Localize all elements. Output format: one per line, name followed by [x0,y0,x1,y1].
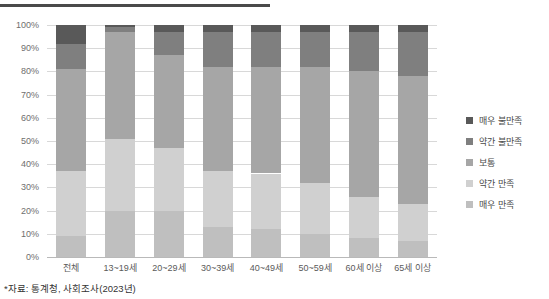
bar-segment [56,44,86,70]
bar-segment [300,25,330,32]
source-footnote: *자료: 통계청, 사회조사(2023년) [4,281,136,295]
bar-segment [56,236,86,257]
stacked-bar [154,25,184,257]
chart-legend: 매우 불만족약간 불만족보통약간 만족매우 만족 [466,110,546,215]
bar-segment [398,32,428,76]
bar-segment [105,32,135,139]
stacked-bar [105,25,135,257]
legend-swatch-icon [466,201,473,208]
y-axis-tick: 80% [21,66,39,76]
x-axis-tick: 전체 [63,261,79,274]
bar-segment [300,67,330,183]
bar-segment [203,67,233,171]
x-axis-tick: 65세 이상 [394,261,431,274]
bar-segment [251,32,281,67]
legend-item[interactable]: 매우 불만족 [466,110,546,131]
bar-segment [349,238,379,257]
bar-segment [105,25,135,27]
bar-segment [251,25,281,32]
legend-item[interactable]: 약간 만족 [466,173,546,194]
x-axis-tick: 20~29세 [152,261,185,274]
legend-item[interactable]: 보통 [466,152,546,173]
y-axis-tick: 50% [21,136,39,146]
bar-segment [56,69,86,171]
bar-segment [154,148,184,211]
bar-segment [56,25,86,44]
stacked-bar [56,25,86,257]
y-axis-tick: 90% [21,43,39,53]
y-axis-tick: 0% [26,252,39,262]
legend-swatch-icon [466,138,473,145]
y-axis-labels: 100%90%80%70%60%50%40%30%20%10%0% [0,0,43,299]
gridline [47,257,437,258]
bar-group [47,25,437,257]
legend-item-label: 약간 불만족 [479,135,522,148]
stacked-bar [300,25,330,257]
x-axis-tick: 60세 이상 [346,261,383,274]
bar-segment [251,174,281,230]
y-axis-tick: 70% [21,90,39,100]
x-axis-tick: 50~59세 [298,261,331,274]
bar-segment [349,197,379,239]
x-axis-tick: 40~49세 [250,261,283,274]
bar-segment [154,211,184,257]
bar-segment [300,32,330,67]
stacked-bar [251,25,281,257]
bar-segment [203,171,233,227]
stacked-bar [349,25,379,257]
bar-segment [300,183,330,234]
bar-segment [349,32,379,71]
legend-swatch-icon [466,159,473,166]
y-axis-tick: 60% [21,113,39,123]
bar-segment [105,211,135,257]
legend-item-label: 매우 만족 [479,198,514,211]
bar-segment [154,25,184,32]
stacked-bar [203,25,233,257]
bar-segment [154,32,184,55]
x-axis-labels: 전체13~19세20~29세30~39세40~49세50~59세60세 이상65… [47,261,437,277]
y-axis-tick: 100% [16,20,39,30]
bar-segment [105,27,135,32]
bar-segment [251,67,281,174]
y-axis-tick: 40% [21,159,39,169]
bar-segment [398,25,428,32]
legend-swatch-icon [466,180,473,187]
bar-segment [56,171,86,236]
bar-segment [203,227,233,257]
bar-segment [300,234,330,257]
bar-segment [203,25,233,32]
legend-item-label: 매우 불만족 [479,114,522,127]
bar-segment [349,71,379,196]
stacked-bar-chart: 100%90%80%70%60%50%40%30%20%10%0% 전체13~1… [0,0,549,299]
bar-segment [398,76,428,204]
stacked-bar [398,25,428,257]
y-axis-tick: 20% [21,206,39,216]
y-axis-tick: 30% [21,182,39,192]
x-axis-tick: 13~19세 [103,261,136,274]
bar-segment [251,229,281,257]
legend-item-label: 보통 [479,156,495,169]
y-axis-tick: 10% [21,229,39,239]
bar-segment [203,32,233,67]
bar-segment [105,139,135,211]
bar-segment [398,204,428,241]
legend-swatch-icon [466,117,473,124]
bar-segment [349,25,379,32]
x-axis-tick: 30~39세 [201,261,234,274]
legend-item-label: 약간 만족 [479,177,514,190]
plot-area [47,25,437,257]
bar-segment [398,241,428,257]
bar-segment [154,55,184,148]
legend-item[interactable]: 약간 불만족 [466,131,546,152]
legend-item[interactable]: 매우 만족 [466,194,546,215]
